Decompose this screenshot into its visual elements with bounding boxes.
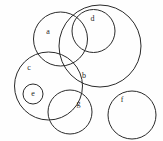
circle-label-a: a [46,27,50,36]
labels-layer: abcdefg [27,14,123,108]
circle-b[interactable] [59,5,141,87]
circle-diagram: abcdefg [0,0,163,141]
circle-f[interactable] [108,91,156,139]
circle-label-f: f [121,95,124,104]
circle-label-b: b [82,71,86,80]
diagram-canvas: abcdefg [0,0,163,141]
circle-label-d: d [91,14,95,23]
circle-label-e: e [31,89,35,98]
circle-label-c: c [27,63,31,72]
circle-label-g: g [77,99,81,108]
